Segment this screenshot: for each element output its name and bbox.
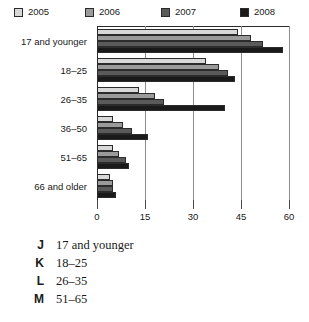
bar bbox=[97, 105, 225, 111]
bars-plot-area bbox=[97, 26, 289, 200]
legend-item-2005: 2005 bbox=[14, 7, 49, 17]
legend-swatch-2007 bbox=[161, 8, 170, 17]
legend-item-2006: 2006 bbox=[85, 7, 120, 17]
bar-group bbox=[97, 58, 289, 82]
bar-group bbox=[97, 145, 289, 169]
bar bbox=[97, 76, 235, 82]
tick-label: 45 bbox=[236, 211, 247, 222]
tick-mark bbox=[145, 200, 146, 209]
answer-choice-M[interactable]: M51–65 bbox=[0, 292, 309, 310]
tick-mark bbox=[289, 200, 290, 209]
choice-letter: J bbox=[0, 238, 56, 252]
bar bbox=[97, 192, 116, 198]
answer-choice-J[interactable]: J17 and younger bbox=[0, 238, 309, 256]
answer-choice-K[interactable]: K18–25 bbox=[0, 256, 309, 274]
bar-group bbox=[97, 87, 289, 111]
legend-swatch-2008 bbox=[240, 8, 249, 17]
category-label: 36–50 bbox=[61, 122, 87, 133]
bar bbox=[97, 163, 129, 169]
tick-mark bbox=[241, 200, 242, 209]
choice-text: 18–25 bbox=[56, 256, 87, 271]
choice-letter: M bbox=[0, 292, 56, 306]
legend-item-2008: 2008 bbox=[240, 7, 275, 17]
bar bbox=[97, 134, 148, 140]
tick-label: 60 bbox=[284, 211, 295, 222]
category-label: 17 and younger bbox=[21, 35, 87, 46]
choice-letter: L bbox=[0, 274, 56, 288]
gridline bbox=[289, 26, 290, 200]
category-label: 18–25 bbox=[61, 64, 87, 75]
category-label: 51–65 bbox=[61, 151, 87, 162]
value-axis-line bbox=[97, 26, 98, 200]
legend-label-2006: 2006 bbox=[99, 7, 120, 17]
value-axis-ticks: 015304560 bbox=[97, 200, 290, 228]
bar bbox=[97, 47, 283, 53]
legend-swatch-2005 bbox=[14, 8, 23, 17]
tick-label: 15 bbox=[140, 211, 151, 222]
legend-label-2008: 2008 bbox=[254, 7, 275, 17]
legend-item-2007: 2007 bbox=[161, 7, 196, 17]
tick-label: 0 bbox=[94, 211, 99, 222]
category-axis-labels: 17 and younger18–2526–3536–5051–6566 and… bbox=[0, 26, 92, 200]
tick-mark bbox=[193, 200, 194, 209]
choice-letter: K bbox=[0, 256, 56, 270]
choice-text: 51–65 bbox=[56, 292, 87, 307]
answer-choice-L[interactable]: L26–35 bbox=[0, 274, 309, 292]
chart-legend: 2005 2006 2007 2008 bbox=[0, 0, 309, 26]
bar-group bbox=[97, 116, 289, 140]
choice-text: 17 and younger bbox=[56, 238, 134, 253]
bar-chart: 17 and younger18–2526–3536–5051–6566 and… bbox=[0, 26, 309, 228]
category-label: 66 and older bbox=[34, 180, 87, 191]
tick-mark bbox=[97, 200, 98, 209]
bar-group bbox=[97, 29, 289, 53]
legend-label-2005: 2005 bbox=[28, 7, 49, 17]
choice-text: 26–35 bbox=[56, 274, 87, 289]
tick-label: 30 bbox=[188, 211, 199, 222]
category-label: 26–35 bbox=[61, 93, 87, 104]
legend-swatch-2006 bbox=[85, 8, 94, 17]
answer-choices: J17 and youngerK18–25L26–35M51–65 bbox=[0, 238, 309, 310]
bar-group bbox=[97, 174, 289, 198]
legend-label-2007: 2007 bbox=[175, 7, 196, 17]
